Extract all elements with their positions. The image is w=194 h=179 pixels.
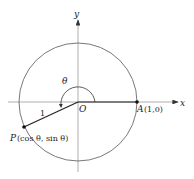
point-p <box>22 125 26 129</box>
y-axis-label: y <box>73 9 80 19</box>
point-p-name: P <box>9 133 17 143</box>
point-a-coords: (1,0) <box>144 105 163 114</box>
segment-op <box>24 102 78 127</box>
radius-label: 1 <box>40 109 45 118</box>
point-a-name: A <box>136 104 144 114</box>
unit-circle-diagram: y x O θ 1 A (1,0) P (cos θ, sin θ) <box>0 0 194 179</box>
origin-label: O <box>79 104 87 114</box>
angle-label: θ <box>62 76 68 86</box>
point-p-coords: (cos θ, sin θ) <box>17 134 68 143</box>
x-axis-label: x <box>180 98 185 108</box>
